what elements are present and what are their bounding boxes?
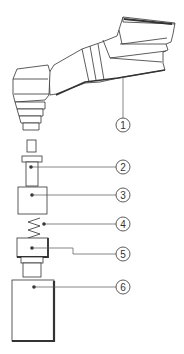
rectangular-housing — [12, 280, 54, 341]
svg-text:5: 5 — [120, 249, 126, 260]
callout-2: 2 — [116, 160, 130, 174]
handpiece-body — [13, 17, 175, 130]
svg-text:2: 2 — [120, 162, 126, 173]
svg-text:6: 6 — [120, 282, 126, 293]
svg-text:4: 4 — [120, 219, 126, 230]
spring — [28, 218, 46, 241]
callout-3: 3 — [116, 188, 130, 202]
small-cap — [27, 140, 36, 152]
push-button-cap — [22, 156, 42, 186]
svg-text:3: 3 — [120, 190, 126, 201]
callout-1: 1 — [116, 118, 130, 132]
threaded-fitting — [17, 238, 48, 277]
callout-4: 4 — [116, 217, 130, 231]
exploded-diagram: 1 2 3 4 5 6 — [0, 0, 184, 354]
svg-text:1: 1 — [120, 120, 126, 131]
callout-5: 5 — [116, 247, 130, 261]
callout-6: 6 — [116, 280, 130, 294]
square-block — [18, 187, 47, 214]
